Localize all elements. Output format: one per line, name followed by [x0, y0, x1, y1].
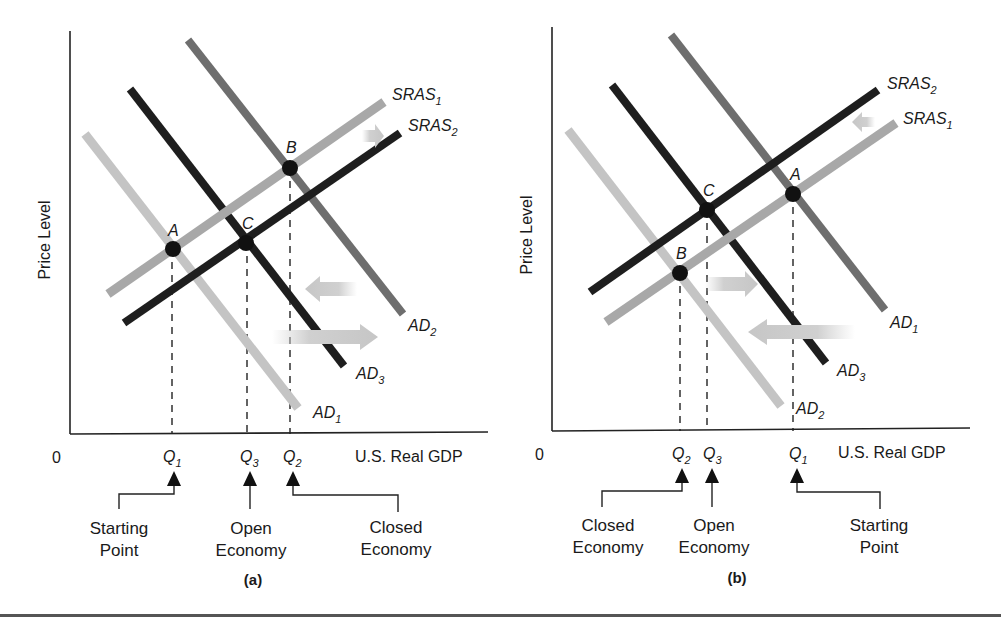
- sras2-label: SRAS2: [408, 117, 458, 138]
- panel-a: Price Level 0 U.S. Real GDP A B C SRAS1: [36, 31, 488, 588]
- x-axis-label: U.S. Real GDP: [838, 444, 946, 461]
- annotation-starting-point: StartingPoint: [90, 519, 149, 560]
- y-axis-label: Price Level: [518, 195, 535, 274]
- point-a-label: A: [789, 166, 801, 183]
- arrowhead-q2: [286, 471, 300, 486]
- y-axis-label: Price Level: [36, 200, 53, 279]
- sras1-curve: [108, 102, 384, 294]
- point-a: [165, 241, 181, 257]
- sras-shift-left-arrow: [852, 112, 875, 132]
- starting-point-pointer: [119, 480, 174, 509]
- sras2-curve: [124, 133, 400, 323]
- ad1-label: AD1: [889, 314, 918, 335]
- arrowhead-q1: [790, 468, 804, 483]
- tick-q3: Q3: [240, 448, 259, 469]
- annotation-closed-economy: ClosedEconomy: [361, 518, 432, 559]
- point-c-label: C: [242, 215, 254, 232]
- ad1-curve: [671, 35, 885, 310]
- annotation-open-economy: OpenEconomy: [216, 519, 287, 560]
- tick-q2: Q2: [283, 448, 302, 469]
- x-axis-label: U.S. Real GDP: [355, 448, 463, 465]
- starting-point-pointer: [797, 478, 880, 509]
- arrowhead-q3: [705, 468, 719, 483]
- panel-caption-a: (a): [244, 571, 262, 588]
- tick-q3: Q3: [703, 445, 722, 466]
- bottom-rule: [0, 614, 1001, 617]
- ad2-label: AD2: [407, 317, 436, 338]
- point-b-label: B: [676, 245, 687, 262]
- point-b-label: B: [286, 139, 297, 156]
- figure: Price Level 0 U.S. Real GDP A B C SRAS1: [0, 0, 1001, 626]
- ad-shift-left-arrow: [748, 319, 855, 345]
- origin-label: 0: [535, 446, 544, 463]
- ad2-label: AD2: [795, 400, 824, 421]
- point-b: [282, 160, 298, 176]
- ad3-label: AD3: [355, 365, 385, 386]
- point-a: [785, 186, 801, 202]
- closed-economy-pointer: [602, 478, 682, 507]
- tick-q2: Q2: [672, 445, 691, 466]
- sras2-label: SRAS2: [887, 75, 937, 96]
- tick-q1: Q1: [163, 448, 182, 469]
- sras1-label: SRAS1: [903, 110, 953, 131]
- sras1-curve: [606, 123, 896, 322]
- ad1-label: AD1: [312, 404, 341, 425]
- point-b: [672, 265, 688, 281]
- tick-q1: Q1: [789, 445, 808, 466]
- point-c: [699, 202, 715, 218]
- sras1-label: SRAS1: [392, 86, 442, 107]
- arrowhead-q3: [243, 471, 257, 486]
- arrowhead-q2: [675, 468, 689, 483]
- panel-b: Price Level 0 U.S. Real GDP A B C SRAS2 …: [518, 27, 970, 586]
- origin-label: 0: [52, 449, 61, 466]
- ad2-curve: [188, 40, 403, 314]
- point-a-label: A: [167, 222, 179, 239]
- closed-economy-pointer: [293, 480, 398, 512]
- annotation-closed-economy: ClosedEconomy: [573, 516, 644, 557]
- annotation-open-economy: OpenEconomy: [679, 516, 750, 557]
- x-axis: [70, 432, 488, 434]
- ad-shift-left-arrow: [305, 276, 357, 302]
- arrowhead-q1: [167, 471, 181, 486]
- panel-caption-b: (b): [727, 569, 746, 586]
- annotation-starting-point: StartingPoint: [850, 516, 909, 557]
- point-c: [238, 235, 254, 251]
- point-c-label: C: [703, 182, 715, 199]
- ad-shift-right-arrow: [705, 271, 758, 297]
- ad3-label: AD3: [836, 362, 866, 383]
- x-axis: [552, 428, 970, 431]
